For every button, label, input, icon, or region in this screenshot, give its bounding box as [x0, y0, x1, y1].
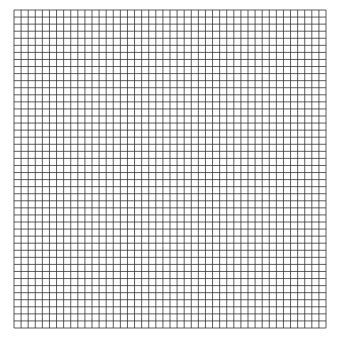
grid-pattern	[0, 0, 339, 340]
